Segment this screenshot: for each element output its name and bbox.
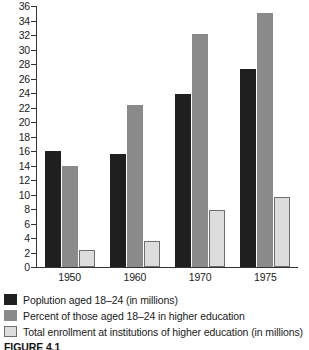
- y-axis-tick-label: 20: [8, 117, 30, 127]
- y-axis-tick-label: 8: [8, 204, 30, 214]
- legend-label: Total enrollment at institutions of high…: [23, 326, 303, 338]
- y-axis-tick-label: 30: [8, 45, 30, 55]
- legend-swatch-icon: [4, 310, 17, 321]
- y-axis-tick-label: 10: [8, 190, 30, 200]
- y-axis-tick-label: 24: [8, 88, 30, 98]
- chart-plot-area: 024681012141618202224262830323436 195019…: [0, 0, 309, 290]
- bar: [175, 94, 191, 267]
- y-axis-tick-label: 12: [8, 175, 30, 185]
- chart-legend: Poplution aged 18–24 (in millions)Percen…: [4, 292, 309, 340]
- x-axis-tick-label: 1960: [102, 271, 167, 283]
- y-axis-tick-label: 26: [8, 74, 30, 84]
- y-axis-tick-mark: [31, 35, 36, 36]
- bar-group: [175, 6, 225, 267]
- y-axis-tick-label: 4: [8, 233, 30, 243]
- y-axis-tick-label: 14: [8, 161, 30, 171]
- y-axis-tick-mark: [31, 151, 36, 152]
- y-axis-tick-mark: [31, 64, 36, 65]
- y-axis-tick-mark: [31, 195, 36, 196]
- bar: [127, 105, 143, 267]
- bar-group: [110, 6, 160, 267]
- legend-item: Total enrollment at institutions of high…: [4, 324, 309, 339]
- y-axis-tick-label: 36: [8, 1, 30, 11]
- y-axis-tick-label: 18: [8, 132, 30, 142]
- figure-caption: FIGURE 4.1: [4, 341, 60, 350]
- y-axis-tick-mark: [31, 238, 36, 239]
- x-axis-line: [36, 267, 298, 268]
- bar: [144, 241, 160, 267]
- x-axis-tick-label: 1970: [168, 271, 233, 283]
- y-axis-tick-mark: [31, 21, 36, 22]
- y-axis-tick-label: 28: [8, 59, 30, 69]
- bar-group: [45, 6, 95, 267]
- y-axis-tick-mark: [31, 93, 36, 94]
- y-axis-tick-mark: [31, 209, 36, 210]
- bar-group: [240, 6, 290, 267]
- y-axis-tick-label: 34: [8, 16, 30, 26]
- x-axis-tick-label: 1975: [233, 271, 298, 283]
- y-axis-tick-label: 32: [8, 30, 30, 40]
- y-axis-tick-mark: [31, 137, 36, 138]
- y-axis-tick-mark: [31, 6, 36, 7]
- y-axis-tick-mark: [31, 122, 36, 123]
- bar-series-layer: [37, 6, 298, 267]
- bar: [240, 69, 256, 267]
- y-axis-tick-label: 0: [8, 262, 30, 272]
- bar: [257, 13, 273, 267]
- legend-swatch-icon: [4, 326, 17, 337]
- x-axis-tick-label: 1950: [37, 271, 102, 283]
- bar: [62, 166, 78, 268]
- legend-label: Poplution aged 18–24 (in millions): [23, 294, 178, 306]
- y-axis-tick-mark: [31, 108, 36, 109]
- y-axis-tick-mark: [31, 180, 36, 181]
- y-axis-tick-mark: [31, 253, 36, 254]
- y-axis-tick-label: 2: [8, 248, 30, 258]
- legend-label: Percent of those aged 18–24 in higher ed…: [23, 310, 245, 322]
- bar: [79, 250, 95, 267]
- y-axis-tick-label: 16: [8, 146, 30, 156]
- bar: [209, 210, 225, 267]
- bar: [110, 154, 126, 267]
- y-axis-tick-labels: 024681012141618202224262830323436: [6, 0, 30, 290]
- y-axis-tick-mark: [31, 50, 36, 51]
- figure-container: 024681012141618202224262830323436 195019…: [0, 0, 309, 350]
- y-axis-tick-mark: [31, 79, 36, 80]
- y-axis-tick-mark: [31, 224, 36, 225]
- y-axis-tick-label: 6: [8, 219, 30, 229]
- y-axis-tick-mark: [31, 267, 36, 268]
- bar: [274, 197, 290, 267]
- y-axis-tick-mark: [31, 166, 36, 167]
- bar: [192, 34, 208, 267]
- legend-item: Percent of those aged 18–24 in higher ed…: [4, 308, 309, 323]
- legend-item: Poplution aged 18–24 (in millions): [4, 292, 309, 307]
- bar: [45, 151, 61, 267]
- y-axis-tick-label: 22: [8, 103, 30, 113]
- legend-swatch-icon: [4, 294, 17, 305]
